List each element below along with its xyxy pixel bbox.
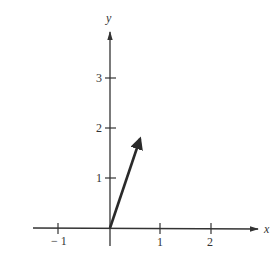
y-tick-1: 1 [96, 171, 116, 185]
y-tick-label: 1 [96, 171, 102, 185]
x-tick-label: 2 [207, 235, 213, 249]
x-tick-label: − 1 [51, 234, 67, 248]
x-tick-label: 1 [157, 235, 163, 249]
x-axis-label: x [263, 222, 270, 236]
y-tick-label: 3 [96, 71, 102, 85]
x-tick-2: 2 [207, 223, 213, 249]
x-axis [33, 228, 258, 229]
x-tick-neg1: − 1 [51, 223, 67, 248]
y-tick-3: 3 [96, 71, 116, 85]
y-tick-label: 2 [96, 121, 102, 135]
y-tick-2: 2 [96, 121, 116, 135]
x-tick-1: 1 [157, 223, 163, 249]
vector-arrow [110, 139, 140, 228]
vector-diagram: − 1 1 2 1 2 3 x y [0, 0, 274, 272]
y-axis-label: y [105, 11, 112, 25]
